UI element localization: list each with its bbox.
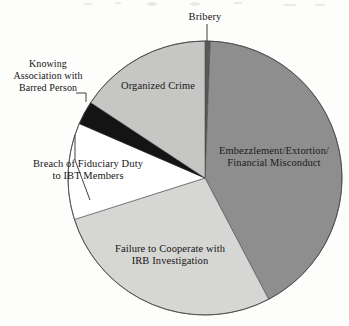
slice-label-knowing-association: Knowing Association with Barred Person <box>2 58 94 93</box>
slice-label-knowing-association-line1: Knowing <box>2 58 94 70</box>
slice-label-breach-of-fiduciary-duty: Breach of Fiduciary Duty to IBT Members <box>24 158 152 183</box>
slice-label-organized-crime: Organized Crime <box>106 80 210 92</box>
slice-label-embezzlement-line1: Embezzlement/Extortion/ <box>204 145 344 157</box>
slice-label-embezzlement-line2: Financial Misconduct <box>204 157 344 169</box>
slice-label-failure-to-cooperate: Failure to Cooperate with IRB Investigat… <box>100 243 240 268</box>
pie-chart-figure: Bribery Knowing Association with Barred … <box>0 0 349 326</box>
slice-label-breach-line2: to IBT Members <box>24 170 152 182</box>
slice-label-bribery-text: Bribery <box>189 11 222 22</box>
slice-label-bribery: Bribery <box>170 11 240 23</box>
leader-line-knowing-association <box>76 93 86 102</box>
slice-label-knowing-association-line2: Association with <box>2 70 94 82</box>
slice-label-failure-line1: Failure to Cooperate with <box>100 243 240 255</box>
slice-label-breach-line1: Breach of Fiduciary Duty <box>24 158 152 170</box>
slice-label-knowing-association-line3: Barred Person <box>2 82 94 94</box>
slice-label-failure-line2: IRB Investigation <box>100 255 240 267</box>
slice-label-embezzlement: Embezzlement/Extortion/ Financial Miscon… <box>204 145 344 170</box>
slice-label-organized-crime-text: Organized Crime <box>121 80 195 91</box>
